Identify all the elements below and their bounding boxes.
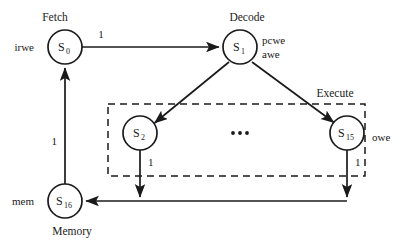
signal-label-owe: owe: [372, 131, 390, 143]
state-node-s0[interactable]: [48, 30, 82, 64]
stage-label-memory: Memory: [52, 225, 92, 238]
signal-label-irwe: irwe: [14, 41, 34, 53]
state-node-s2[interactable]: [123, 116, 157, 150]
state-subscript-s0: 0: [66, 47, 70, 56]
stage-label-execute: Execute: [316, 87, 353, 99]
state-subscript-s2: 2: [141, 133, 145, 142]
state-machine-diagram: S 0 S 1 S 2 S 15 S 16 Fetch Decode Memor…: [0, 0, 405, 250]
transition-label-s16-s0: 1: [52, 135, 58, 147]
state-label-s1: S: [233, 40, 240, 54]
ellipsis-indicator: [231, 131, 249, 135]
transition-label-s15-s16: 1: [355, 156, 361, 168]
stage-label-decode: Decode: [229, 11, 264, 23]
state-label-s16: S: [56, 194, 63, 208]
state-subscript-s15: 15: [346, 133, 354, 142]
signal-label-mem: mem: [12, 195, 34, 207]
state-label-s0: S: [58, 40, 65, 54]
state-subscript-s1: 1: [241, 47, 245, 56]
transition-label-s0-s1: 1: [98, 28, 104, 40]
diagram-canvas: S 0 S 1 S 2 S 15 S 16 Fetch Decode Memor…: [0, 0, 405, 250]
signal-label-pcwe: pcwe: [262, 34, 285, 46]
transition-label-s2-s16: 1: [148, 156, 154, 168]
signal-label-awe: awe: [262, 48, 280, 60]
state-label-s2: S: [133, 126, 140, 140]
state-node-s1[interactable]: [223, 30, 257, 64]
stage-label-fetch: Fetch: [42, 11, 68, 23]
state-label-s15: S: [338, 126, 345, 140]
transition-s1-to-s2: [155, 62, 230, 123]
state-subscript-s16: 16: [64, 201, 72, 210]
